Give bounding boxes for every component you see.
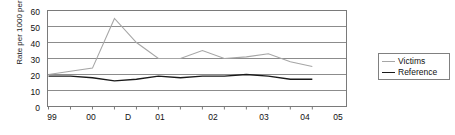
legend: Victims Reference (378, 53, 450, 80)
series-line-reference (49, 75, 313, 81)
legend-swatch-reference (382, 72, 395, 73)
legend-label-victims: Victims (398, 56, 425, 67)
legend-item-reference: Reference (382, 67, 449, 78)
legend-swatch-victims (382, 61, 395, 62)
gridlines (48, 27, 347, 91)
legend-label-reference: Reference (398, 67, 437, 78)
legend-item-victims: Victims (382, 56, 449, 67)
line-chart: Rate per 1000 per 6 months 60 50 40 30 2… (0, 0, 455, 135)
